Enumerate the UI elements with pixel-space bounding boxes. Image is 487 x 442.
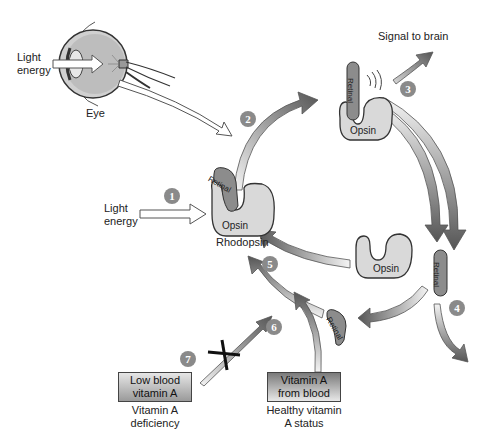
step-6-marker: 6 (266, 319, 282, 335)
eye-to-rhodopsin-arrow (118, 80, 232, 136)
step-3-marker: 3 (400, 81, 416, 97)
vitamin-a-from-blood-box: Vitamin Afrom blood (267, 372, 341, 402)
step-4-marker: 4 (449, 300, 465, 316)
arrow-step-2 (234, 92, 318, 190)
free-opsin-label: Opsin (373, 262, 399, 275)
rhodopsin-opsin-label: Opsin (222, 219, 248, 232)
step-2-marker: 2 (240, 111, 256, 127)
activated-retinal-label: Retinal (344, 78, 357, 103)
light-energy-label: Lightenergy (104, 202, 138, 228)
activated-opsin-label: Opsin (350, 124, 376, 137)
step-1-marker: 1 (164, 188, 180, 204)
step-7-marker: 7 (180, 351, 196, 367)
eye-label: Eye (86, 107, 105, 120)
eye-light-label: Lightenergy (17, 51, 51, 77)
vitamin-a-visual-cycle-diagram: Lightenergy Eye Signal to brain Lightene… (0, 0, 487, 442)
free-retinal-label: Retinal (430, 262, 443, 287)
signal-to-brain-label: Signal to brain (378, 30, 448, 43)
low-blood-vitamin-a-box: Low bloodvitamin A (118, 372, 192, 402)
light-energy-arrow (140, 204, 206, 224)
signal-to-brain-arrow (393, 52, 433, 84)
arrow-retinal-to-recycled (358, 286, 428, 328)
signal-waves (367, 70, 381, 90)
arrow-to-rhodopsin (248, 256, 324, 318)
rhodopsin-label: Rhodopsin (216, 236, 269, 249)
healthy-vitamin-a-caption: Healthy vitaminA status (262, 404, 346, 430)
vitamin-a-deficiency-caption: Vitamin Adeficiency (118, 404, 192, 430)
step-5-marker: 5 (262, 256, 278, 272)
